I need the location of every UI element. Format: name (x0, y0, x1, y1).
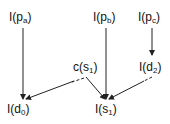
node-I-pc: I(pc) (138, 10, 160, 28)
close: ) (93, 60, 97, 74)
edge-cs1-s1 (86, 77, 105, 99)
fn: c( (73, 60, 83, 74)
edge-d2-s1 (109, 81, 144, 99)
close: ) (156, 10, 160, 24)
node-I-pb: I(pb) (93, 10, 115, 28)
node-I-d0: I(d0) (7, 102, 29, 120)
close: ) (113, 102, 117, 116)
node-I-pa: I(pa) (9, 10, 31, 28)
node-c-s1: c(s1) (73, 60, 97, 78)
close: ) (111, 10, 115, 24)
edge-cs1-d0-solid (26, 81, 74, 99)
close: ) (25, 102, 29, 116)
close: ) (157, 60, 161, 74)
node-I-s1: I(s1) (95, 102, 117, 120)
node-I-d2: I(d2) (139, 60, 161, 78)
close: ) (27, 10, 31, 24)
